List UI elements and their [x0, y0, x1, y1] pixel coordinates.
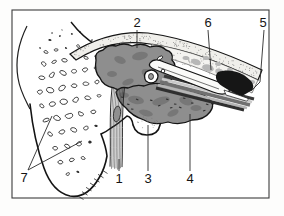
- figure-label-5: 5: [259, 15, 266, 30]
- ossicle-ring-hole: [149, 74, 154, 80]
- figure-label-7: 7: [20, 170, 27, 185]
- small-nodule: [161, 69, 165, 73]
- figure-label-6: 6: [204, 15, 211, 30]
- anatomical-figure: 2 6 5 7 1 3 4: [0, 0, 284, 216]
- screenshot-root: 2 6 5 7 1 3 4: [0, 0, 284, 216]
- figure-label-4: 4: [186, 171, 193, 186]
- figure-label-1: 1: [115, 171, 122, 186]
- figure-label-2: 2: [133, 15, 140, 30]
- figure-label-3: 3: [144, 171, 151, 186]
